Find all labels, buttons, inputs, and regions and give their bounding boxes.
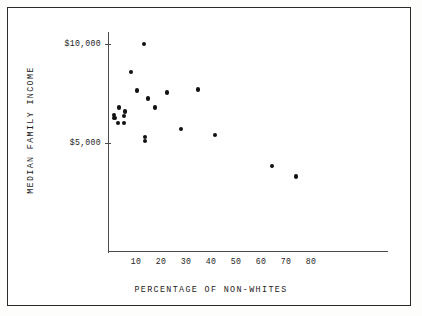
data-point: [135, 88, 139, 92]
data-point: [294, 174, 298, 178]
data-point: [270, 164, 274, 168]
x-axis-tick-label: 40: [206, 257, 217, 266]
y-axis-title: MEDIAN FAMILY INCOME: [26, 60, 36, 200]
scatter-plot-figure: $5,000$10,000 1020304050607080 MEDIAN FA…: [0, 0, 422, 316]
data-point: [213, 133, 217, 137]
plot-area: $5,000$10,000 1020304050607080 MEDIAN FA…: [0, 0, 422, 316]
data-point: [143, 139, 147, 143]
data-point: [116, 121, 120, 125]
data-point: [129, 70, 133, 74]
data-point: [142, 42, 146, 46]
x-axis-title: PERCENTAGE OF NON-WHITES: [0, 285, 422, 295]
y-axis-tick-mark: [105, 44, 111, 45]
x-axis-tick-label: 20: [156, 257, 167, 266]
x-axis-tick-label: 60: [256, 257, 267, 266]
data-point: [165, 90, 169, 94]
data-point: [123, 109, 127, 113]
x-axis-tick-label: 80: [306, 257, 317, 266]
data-point: [153, 105, 157, 109]
data-point: [179, 127, 183, 131]
x-axis-line: [108, 251, 388, 252]
x-axis-tick-label: 50: [231, 257, 242, 266]
y-axis-tick-label: $5,000: [31, 138, 101, 147]
y-axis-tick-mark: [105, 143, 111, 144]
data-point: [122, 114, 126, 118]
data-point: [117, 105, 121, 109]
x-axis-tick-label: 10: [131, 257, 142, 266]
y-axis-tick-label: $10,000: [31, 39, 101, 48]
data-point: [122, 121, 126, 125]
data-point: [196, 87, 200, 91]
x-axis-tick-label: 30: [181, 257, 192, 266]
data-point: [112, 116, 116, 120]
x-axis-tick-label: 70: [281, 257, 292, 266]
data-point: [146, 96, 150, 100]
